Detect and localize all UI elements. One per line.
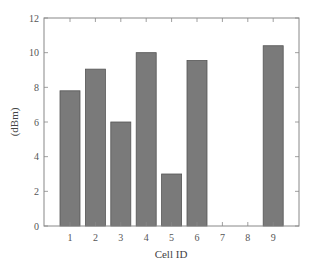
x-tick-label: 6 (195, 232, 200, 243)
y-tick-label: 8 (34, 82, 39, 93)
y-tick-label: 10 (29, 47, 39, 58)
bar-cell-2 (85, 69, 105, 226)
y-tick-label: 0 (34, 221, 39, 232)
y-tick-label: 4 (34, 151, 39, 162)
bar-chart: 024681012 123456789 Cell ID (dBm) (0, 0, 315, 270)
bar-cell-6 (187, 60, 207, 226)
y-tick-label: 2 (34, 186, 39, 197)
x-tick-label: 9 (271, 232, 276, 243)
x-tick-label: 2 (93, 232, 98, 243)
bar-cell-5 (162, 174, 182, 226)
x-tick-label: 4 (144, 232, 149, 243)
x-tick-label: 8 (245, 232, 250, 243)
x-tick-label: 1 (68, 232, 73, 243)
bars-group (60, 46, 283, 226)
x-tick-label: 3 (118, 232, 123, 243)
x-axis-label: Cell ID (155, 248, 188, 260)
bar-cell-3 (111, 122, 131, 226)
bar-cell-1 (60, 91, 80, 226)
y-tick-label: 6 (34, 117, 39, 128)
bar-cell-9 (263, 46, 283, 226)
x-tick-label: 7 (220, 232, 225, 243)
x-tick-label: 5 (169, 232, 174, 243)
y-tick-label: 12 (29, 13, 39, 24)
bar-cell-4 (136, 53, 156, 226)
y-axis-label: (dBm) (8, 107, 21, 136)
